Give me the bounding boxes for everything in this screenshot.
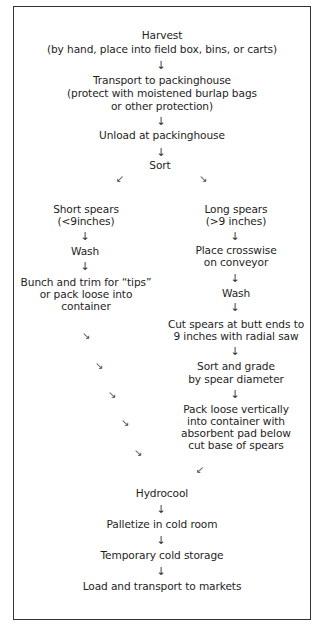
step-pack-loose-2: into container with — [187, 415, 285, 427]
step-long-spears-size: (>9 inches) — [206, 215, 266, 227]
arrow-down-icon: ↓ — [230, 346, 239, 357]
arrow-down-right-icon: ↘ — [95, 361, 103, 371]
arrow-down-right-icon: ↘ — [108, 390, 116, 400]
arrow-down-icon: ↓ — [80, 261, 89, 272]
step-hydrocool: Hydrocool — [136, 487, 188, 499]
arrow-down-right-icon: ↘ — [134, 448, 142, 458]
step-long-wash: Wash — [222, 287, 250, 299]
step-place-crosswise: Place crosswise — [195, 244, 276, 256]
step-harvest-note: (by hand, place into field box, bins, or… — [47, 43, 277, 55]
step-palletize: Palletize in cold room — [107, 518, 218, 530]
step-transport: Transport to packinghouse — [93, 74, 231, 86]
step-short-wash: Wash — [71, 245, 99, 257]
arrow-down-right-icon: ↘ — [82, 331, 90, 341]
arrow-down-right-icon: ↘ — [121, 418, 129, 428]
step-cold-storage: Temporary cold storage — [101, 549, 224, 561]
step-sort-grade: Sort and grade — [197, 360, 275, 372]
step-unload: Unload at packinghouse — [99, 129, 225, 141]
step-pack-loose-4: cut base of spears — [188, 439, 284, 451]
arrow-down-icon: ↓ — [156, 60, 165, 71]
step-sort: Sort — [149, 159, 170, 171]
arrow-down-icon: ↓ — [230, 302, 239, 313]
step-transport-note-2: or other protection) — [111, 100, 213, 112]
arrow-down-icon: ↓ — [156, 566, 165, 577]
step-transport-note-1: (protect with moistened burlap bags — [67, 87, 257, 99]
arrow-down-icon: ↓ — [156, 504, 165, 515]
arrow-down-icon: ↓ — [156, 116, 165, 127]
arrow-down-icon: ↓ — [230, 273, 239, 284]
arrow-down-icon: ↓ — [156, 535, 165, 546]
arrow-down-left-icon: ↙ — [196, 465, 204, 475]
step-cut-spears-2: 9 inches with radial saw — [173, 330, 298, 342]
step-bunch-trim-3: container — [61, 300, 110, 312]
step-harvest: Harvest — [142, 29, 183, 41]
step-short-spears-size: (<9inches) — [57, 215, 114, 227]
step-cut-spears: Cut spears at butt ends to — [168, 318, 304, 330]
step-pack-loose-3: absorbent pad below — [181, 427, 291, 439]
arrow-down-icon: ↓ — [230, 231, 239, 242]
step-load-transport: Load and transport to markets — [83, 580, 242, 592]
step-pack-loose: Pack loose vertically — [183, 403, 289, 415]
step-long-spears: Long spears — [204, 203, 267, 215]
step-bunch-trim-2: or pack loose into — [40, 288, 133, 300]
arrow-down-left-icon: ↙ — [116, 174, 124, 184]
step-short-spears: Short spears — [53, 203, 119, 215]
step-sort-grade-2: by spear diameter — [188, 373, 284, 385]
arrow-down-icon: ↓ — [156, 147, 165, 158]
arrow-down-right-icon: ↘ — [199, 174, 207, 184]
arrow-down-icon: ↓ — [230, 389, 239, 400]
step-bunch-trim: Bunch and trim for “tips” — [21, 276, 152, 288]
step-place-crosswise-2: on conveyor — [204, 256, 268, 268]
arrow-down-icon: ↓ — [80, 231, 89, 242]
